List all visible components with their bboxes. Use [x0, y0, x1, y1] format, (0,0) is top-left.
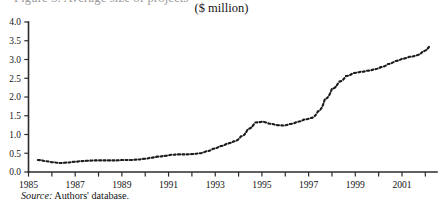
- figure-container: Figure 3. Average size of projects ($ mi…: [0, 0, 443, 206]
- x-axis-tick-label: 1999: [346, 179, 365, 190]
- x-axis-tick-label: 1995: [252, 179, 271, 190]
- y-axis-tick-label: 3.0: [9, 55, 21, 65]
- y-axis-tick-label: 1.5: [9, 111, 21, 121]
- chart-axes: [24, 22, 437, 177]
- source-label: Source:: [21, 190, 52, 201]
- source-note: Source: Authors' database.: [21, 189, 129, 202]
- x-axis-tick-label: 1991: [159, 179, 178, 190]
- data-series-line: [38, 45, 430, 163]
- x-axis-tick-label: 2001: [392, 179, 411, 190]
- y-axis-tick-label: 4.0: [9, 17, 21, 27]
- x-axis-tick-label: 1989: [112, 179, 131, 190]
- x-axis-tick-label: 1985: [19, 179, 38, 190]
- x-axis-tick-labels: 198519871989199119931995199719992001: [19, 179, 412, 190]
- y-axis-tick-labels: 0.00.51.01.52.02.53.03.54.0: [9, 17, 21, 177]
- x-axis-tick-label: 1997: [299, 179, 318, 190]
- x-axis-tick-label: 1987: [66, 179, 85, 190]
- chart-series-group: [38, 45, 430, 163]
- x-axis-tick-label: 1993: [206, 179, 225, 190]
- y-axis-tick-label: 1.0: [9, 130, 21, 140]
- y-axis-tick-label: 0.0: [9, 167, 21, 177]
- y-axis-tick-label: 2.5: [9, 74, 21, 84]
- y-axis-tick-label: 3.5: [9, 36, 21, 46]
- y-axis-tick-label: 2.0: [9, 92, 21, 102]
- y-axis-tick-label: 0.5: [9, 149, 21, 159]
- source-value: Authors' database.: [52, 190, 129, 201]
- line-chart-plot: 0.00.51.01.52.02.53.03.54.0 198519871989…: [0, 0, 443, 206]
